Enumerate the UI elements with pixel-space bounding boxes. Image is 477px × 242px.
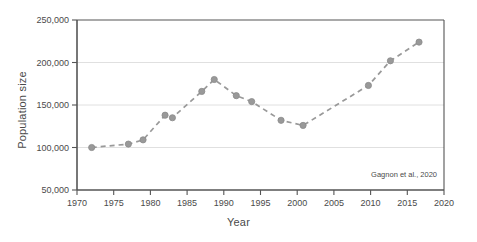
data-point-marker <box>89 144 95 150</box>
axis-ticks <box>72 20 444 195</box>
source-annotation: Gagnon et al., 2020 <box>371 170 437 179</box>
data-point-marker <box>199 88 205 94</box>
gridlines <box>77 63 444 148</box>
data-point-marker <box>278 117 284 123</box>
chart-figure: Population size Year 50,000100,000150,00… <box>0 0 477 242</box>
plot-area <box>0 0 477 242</box>
series-markers <box>89 39 423 151</box>
data-point-marker <box>416 39 422 45</box>
data-point-marker <box>211 76 217 82</box>
series-line <box>92 42 419 147</box>
data-point-marker <box>300 122 306 128</box>
data-point-marker <box>162 112 168 118</box>
data-point-marker <box>365 82 371 88</box>
data-point-marker <box>125 141 131 147</box>
data-point-marker <box>249 99 255 105</box>
data-point-marker <box>140 137 146 143</box>
data-point-marker <box>169 115 175 121</box>
data-point-marker <box>233 93 239 99</box>
data-point-marker <box>387 58 393 64</box>
